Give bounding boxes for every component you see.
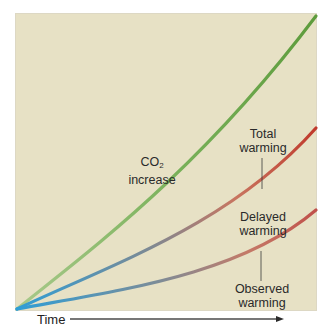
co2-label-subscript: 2 [159,161,163,170]
observed-label-line1: Observed [228,282,296,296]
total-label-line1: Total [232,127,294,141]
total-warming-label: Total warming [232,127,294,155]
arrowhead-icon [276,316,284,322]
co2-label-line2: increase [118,173,186,187]
delayed-label-line2: warming [230,224,296,238]
co2-increase-label: CO2 increase [118,155,186,187]
observed-label-line2: warming [228,296,296,310]
co2-label-main: CO [140,155,159,169]
delayed-label-line1: Delayed [230,210,296,224]
observed-warming-label: Observed warming [228,282,296,310]
total-label-line2: warming [232,141,294,155]
time-axis-label: Time [37,312,65,327]
delayed-warming-label: Delayed warming [230,210,296,238]
